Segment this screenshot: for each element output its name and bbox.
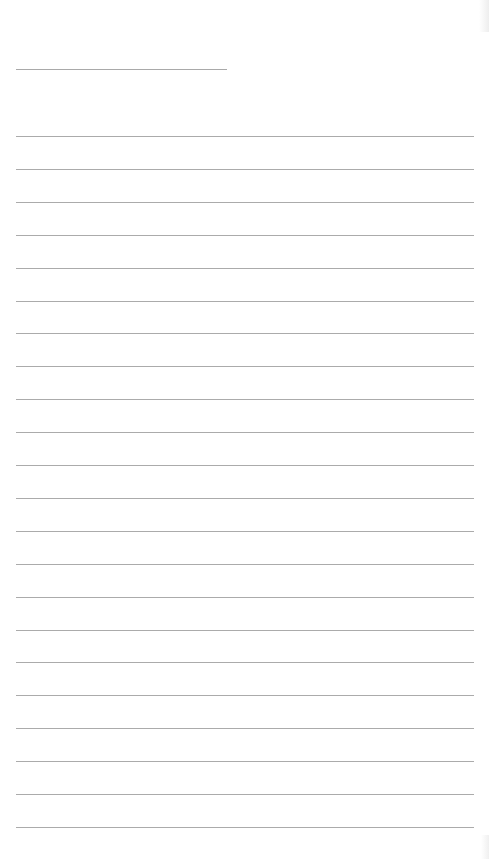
ruled-line	[16, 728, 474, 729]
ruled-line	[16, 794, 474, 795]
ruled-line	[16, 761, 474, 762]
ruled-line	[16, 432, 474, 433]
title-underline	[16, 69, 227, 70]
ruled-line	[16, 235, 474, 236]
ruled-line	[16, 630, 474, 631]
ruled-line	[16, 531, 474, 532]
ruled-line	[16, 366, 474, 367]
ruled-line	[16, 597, 474, 598]
ruled-line	[16, 202, 474, 203]
ruled-line	[16, 564, 474, 565]
ruled-line	[16, 399, 474, 400]
scrollbar-edge	[481, 835, 489, 859]
ruled-line	[16, 169, 474, 170]
scrollbar-thumb[interactable]	[479, 0, 489, 32]
ruled-line	[16, 333, 474, 334]
ruled-line	[16, 465, 474, 466]
ruled-line	[16, 268, 474, 269]
ruled-line	[16, 662, 474, 663]
lined-page	[0, 0, 489, 859]
ruled-line	[16, 301, 474, 302]
ruled-line	[16, 498, 474, 499]
ruled-line	[16, 695, 474, 696]
ruled-line	[16, 827, 474, 828]
ruled-line	[16, 136, 474, 137]
